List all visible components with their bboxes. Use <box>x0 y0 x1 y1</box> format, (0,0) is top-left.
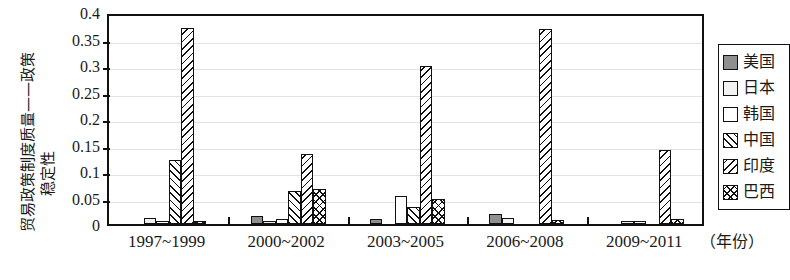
y-axis-title-line2: 稳定性 <box>36 151 57 196</box>
bar-group <box>348 16 467 224</box>
bar-group <box>587 16 702 224</box>
legend-label: 中国 <box>743 132 775 148</box>
bar-巴西 <box>671 219 684 224</box>
y-tick-label: 0.3 <box>80 59 100 75</box>
bar-印度 <box>301 154 314 224</box>
bar-美国 <box>489 214 502 224</box>
legend-label: 日本 <box>743 80 775 96</box>
bar-美国 <box>370 219 383 224</box>
legend-item-中国[interactable]: 中国 <box>723 127 786 153</box>
y-axis-tick <box>103 174 110 176</box>
plot-inner <box>109 16 702 224</box>
x-axis-tick <box>228 217 230 224</box>
legend-label: 韩国 <box>743 106 775 122</box>
y-axis-tick <box>103 121 110 123</box>
bar-中国 <box>288 191 301 224</box>
x-tick-label: 2009~2011 <box>585 232 704 252</box>
y-axis-title-line1: 贸易政策制度质量——政策 <box>16 52 37 232</box>
bar-日本 <box>144 218 157 224</box>
legend-label: 巴西 <box>743 184 775 200</box>
bar-日本 <box>621 221 634 224</box>
legend: 美国日本韩国中国印度巴西 <box>718 44 790 210</box>
x-tick-label: 2006~2008 <box>465 232 584 252</box>
y-tick-label: 0.2 <box>80 112 100 128</box>
x-tick-label: 2000~2002 <box>226 232 345 252</box>
legend-swatch-icon <box>723 185 738 200</box>
bar-巴西 <box>313 189 326 224</box>
x-tick-label: 1997~1999 <box>107 232 226 252</box>
bar-美国 <box>251 216 264 224</box>
bar-日本 <box>502 218 515 224</box>
y-tick-label: 0.1 <box>80 165 100 181</box>
legend-swatch-icon <box>723 107 738 122</box>
bar-group <box>228 16 347 224</box>
x-tick-label: 2003~2005 <box>346 232 465 252</box>
legend-item-印度[interactable]: 印度 <box>723 153 786 179</box>
bar-中国 <box>407 207 420 224</box>
bar-巴西 <box>552 220 565 224</box>
y-axis-title: 贸易政策制度质量——政策 稳定性 <box>0 0 62 242</box>
legend-swatch-icon <box>723 55 738 70</box>
bar-韩国 <box>395 196 408 224</box>
x-axis-tick <box>587 217 589 224</box>
legend-item-日本[interactable]: 日本 <box>723 75 786 101</box>
y-axis-tick <box>103 42 110 44</box>
plot-area <box>107 14 704 226</box>
x-axis-unit-label: （年份） <box>700 232 764 252</box>
legend-item-巴西[interactable]: 巴西 <box>723 179 786 205</box>
y-tick-label: 0.4 <box>80 6 100 22</box>
y-tick-label: 0.05 <box>72 192 100 208</box>
y-axis-tick-labels: 00.050.10.150.20.250.30.350.4 <box>58 0 106 242</box>
y-axis-tick <box>103 201 110 203</box>
legend-swatch-icon <box>723 159 738 174</box>
bar-印度 <box>539 29 552 224</box>
legend-label: 美国 <box>743 54 775 70</box>
bar-韩国 <box>156 221 169 224</box>
bar-韩国 <box>276 219 289 224</box>
y-axis-tick <box>103 148 110 150</box>
x-axis-tick <box>348 217 350 224</box>
bar-印度 <box>659 150 672 224</box>
bar-巴西 <box>432 199 445 224</box>
chart-figure: 贸易政策制度质量——政策 稳定性 00.050.10.150.20.250.30… <box>0 0 790 280</box>
y-axis-tick <box>103 68 110 70</box>
bar-巴西 <box>194 221 207 224</box>
legend-item-美国[interactable]: 美国 <box>723 49 786 75</box>
legend-swatch-icon <box>723 133 738 148</box>
bar-日本 <box>263 221 276 224</box>
bar-韩国 <box>634 221 647 224</box>
bar-中国 <box>169 160 182 224</box>
y-tick-label: 0.15 <box>72 139 100 155</box>
legend-item-韩国[interactable]: 韩国 <box>723 101 786 127</box>
y-tick-label: 0 <box>92 218 100 234</box>
y-tick-label: 0.35 <box>72 33 100 49</box>
y-axis-tick <box>103 95 110 97</box>
bar-group <box>467 16 586 224</box>
y-tick-label: 0.25 <box>72 86 100 102</box>
bar-印度 <box>420 66 433 224</box>
bar-印度 <box>181 28 194 224</box>
legend-swatch-icon <box>723 81 738 96</box>
x-axis-tick <box>467 217 469 224</box>
legend-label: 印度 <box>743 158 775 174</box>
bar-group <box>109 16 228 224</box>
